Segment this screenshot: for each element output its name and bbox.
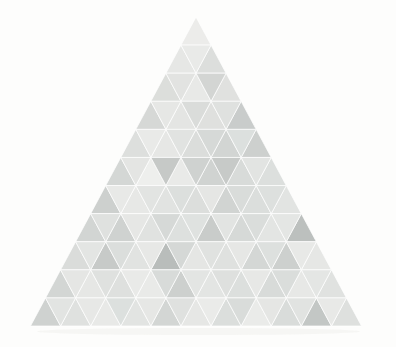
base-shadow (37, 328, 360, 335)
tessellated-triangle-artwork (0, 0, 396, 347)
artboard (0, 0, 396, 347)
